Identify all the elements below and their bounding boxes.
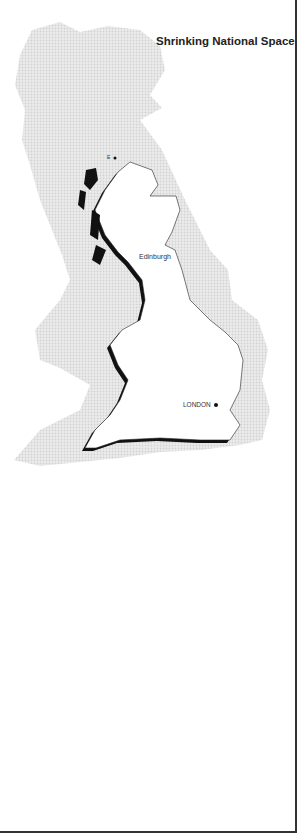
map-title: Shrinking National Space xyxy=(156,35,295,47)
map-graphic xyxy=(0,0,308,840)
small-island-dot xyxy=(114,157,117,160)
london-dot xyxy=(214,403,218,407)
london-label: LONDON xyxy=(183,401,211,408)
small-island-label: E xyxy=(107,154,110,160)
edinburgh-label: Edinburgh xyxy=(139,253,171,260)
